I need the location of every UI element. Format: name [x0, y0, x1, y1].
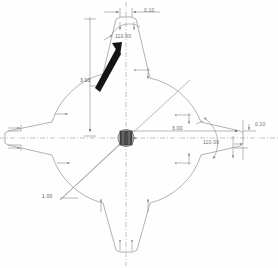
label-right-gap: 0.10: [255, 122, 266, 127]
top-flat-hatch-arrows: [120, 22, 134, 30]
label-horizontal-radius: 3.00: [172, 126, 183, 131]
cad-geometry-svg: [0, 0, 278, 268]
centerlines: [0, 2, 278, 266]
right-tip-dimension: [233, 120, 256, 160]
label-right-angle: 110.00: [203, 140, 219, 145]
label-vertical-height: 3.00: [80, 78, 91, 83]
label-top-angle: 110.00: [115, 34, 131, 39]
label-lower-left-radius: 1.00: [42, 194, 53, 199]
label-top-width: 0.10: [144, 8, 155, 13]
origin-hub-icon: [118, 130, 134, 147]
hatch-direction-arrows: [55, 68, 191, 251]
horizontal-radius-dimension: [126, 131, 238, 138]
cad-drawing-canvas[interactable]: 0.10 110.00 3.00 3.00 0.10 110.00 1.00: [0, 0, 278, 268]
